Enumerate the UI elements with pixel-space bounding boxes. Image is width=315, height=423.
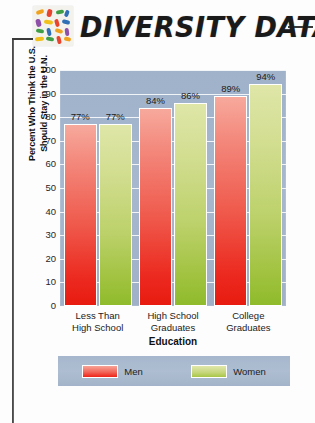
legend-item-men: Men — [82, 365, 142, 378]
bar-value-label: 94% — [256, 71, 275, 82]
bar-group: 84%86% — [135, 70, 210, 306]
bar-men: 89% — [214, 96, 247, 306]
chart-page: DIVERSITY DATA 1009080706050403020100 Pe… — [0, 0, 315, 423]
legend-label-men: Men — [124, 366, 142, 377]
x-axis-tick-label-line: Graduates — [211, 322, 286, 334]
y-axis-tick-label: 40 — [30, 207, 56, 217]
bar-group: 77%77% — [60, 70, 135, 306]
legend-swatch-men — [82, 365, 118, 378]
legend-swatch-women — [191, 365, 227, 378]
x-axis-tick-label-line: High School — [135, 310, 210, 322]
bar-men: 84% — [139, 108, 172, 306]
y-axis-tick-label: 0 — [30, 301, 56, 311]
page-frame-left-rule — [12, 40, 14, 423]
y-axis-title-line-2: Should Stay in the U.N. — [38, 6, 50, 202]
bar-value-label: 77% — [106, 111, 125, 122]
y-axis-tick-label: 30 — [30, 230, 56, 240]
bar-value-label: 77% — [71, 111, 90, 122]
x-axis-tick-label: High SchoolGraduates — [135, 310, 210, 333]
x-axis-tick-label: CollegeGraduates — [211, 310, 286, 333]
x-axis-tick-label-line: High School — [60, 322, 135, 334]
bar-chart: 1009080706050403020100 Percent Who Think… — [18, 56, 305, 406]
y-axis-tick-label: 10 — [30, 277, 56, 287]
bar-women: 94% — [249, 84, 282, 306]
bar-women: 77% — [99, 124, 132, 306]
bar-value-label: 86% — [181, 90, 200, 101]
bar-men: 77% — [64, 124, 97, 306]
y-axis-title: Percent Who Think the U.S. Should Stay i… — [27, 6, 50, 202]
x-axis-tick-label-line: Graduates — [135, 322, 210, 334]
bar-groups: 77%77%84%86%89%94% — [60, 70, 286, 306]
x-axis-tick-label-line: Less Than — [60, 310, 135, 322]
page-title: DIVERSITY DATA — [80, 5, 285, 48]
bar-value-label: 89% — [221, 83, 240, 94]
legend-item-women: Women — [191, 365, 266, 378]
bar-women: 86% — [174, 103, 207, 306]
x-axis-tick-label-line: College — [211, 310, 286, 322]
y-axis-title-line-1: Percent Who Think the U.S. — [27, 6, 39, 202]
x-axis-tick-label: Less ThanHigh School — [60, 310, 135, 333]
bar-group: 89%94% — [211, 70, 286, 306]
bar-value-label: 84% — [146, 95, 165, 106]
chart-legend: Men Women — [58, 356, 290, 386]
legend-label-women: Women — [233, 366, 266, 377]
x-axis-title: Education — [60, 336, 286, 347]
y-axis-tick-label: 20 — [30, 254, 56, 264]
